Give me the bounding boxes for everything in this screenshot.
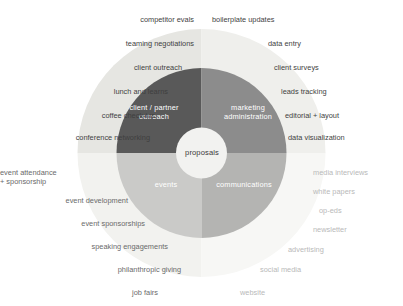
spoke-leads-tracking: leads tracking (281, 87, 401, 96)
spoke-job-fairs: job fairs (0, 288, 158, 297)
spoke-teaming-negotiations: teaming negotiations (14, 39, 194, 48)
spoke-event-attendance-sponsorship: event attendance + sponsorship (0, 168, 106, 187)
spoke-event-sponsorships: event sponsorships (0, 219, 145, 228)
spoke-data-visualization: data visualization (288, 133, 403, 142)
spoke-client-outreach: client outreach (4, 63, 182, 72)
spoke-speaking-engagements: speaking engagements (0, 242, 168, 251)
spoke-data-entry: data entry (268, 39, 398, 48)
spoke-lunch-and-learns: lunch and learns (2, 87, 168, 96)
spoke-white-papers: white papers (313, 187, 403, 196)
spoke-event-development: event development (0, 196, 128, 205)
spoke-philanthropic-giving: philanthropic giving (0, 265, 181, 274)
spoke-media-interviews: media interviews (313, 168, 403, 177)
spoke-client-surveys: client surveys (274, 63, 400, 72)
spoke-editorial-layout: editorial + layout (285, 111, 403, 120)
spoke-social-media: social media (260, 265, 356, 274)
spoke-op-eds: op-eds (319, 206, 403, 215)
spoke-boilerplate-updates: boilerplate updates (212, 15, 392, 24)
spoke-advertising: advertising (288, 245, 378, 254)
spoke-newsletter: newsletter (313, 225, 403, 234)
spoke-competitor-evals: competitor evals (24, 15, 194, 24)
spoke-website: website (240, 288, 320, 297)
spoke-coffee-check-ins: coffee check-ins (0, 111, 155, 120)
business-development-wheel-diagram: client / partner outreach marketing admi… (0, 0, 403, 306)
spoke-conference-networking: conference networking (0, 133, 150, 142)
center-label-proposals: proposals (166, 148, 238, 157)
